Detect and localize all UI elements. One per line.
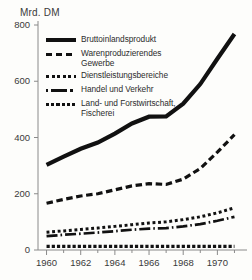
legend-swatch-dash-dot-icon	[46, 84, 76, 96]
legend-item: Dienstleistungsbereiche	[46, 70, 186, 82]
legend: BruttoinlandsproduktWarenproduzierendes …	[46, 34, 186, 120]
chart-container: Mrd. DM 0200400600800 196019621964196619…	[0, 0, 252, 280]
legend-item-label: Handel und Verkehr	[81, 84, 153, 95]
legend-item: Bruttoinlandsprodukt	[46, 34, 186, 46]
legend-swatch-square-dot-icon	[46, 98, 76, 110]
series-line-3	[47, 217, 235, 236]
legend-item-label: Bruttoinlandsprodukt	[81, 34, 156, 45]
legend-item: Warenproduzierendes Gewerbe	[46, 48, 186, 68]
legend-swatch-solid-thick-icon	[46, 34, 76, 46]
legend-swatch-dotted-icon	[46, 70, 76, 82]
legend-item: Handel und Verkehr	[46, 84, 186, 96]
series-line-1	[47, 135, 235, 204]
legend-item-label: Warenproduzierendes Gewerbe	[81, 48, 161, 68]
legend-item-label: Dienstleistungsbereiche	[81, 70, 168, 81]
legend-item-label: Land- und Forstwirtschaft, Fischerei	[81, 98, 176, 118]
legend-swatch-dashed-icon	[46, 48, 76, 60]
legend-item: Land- und Forstwirtschaft, Fischerei	[46, 98, 186, 118]
